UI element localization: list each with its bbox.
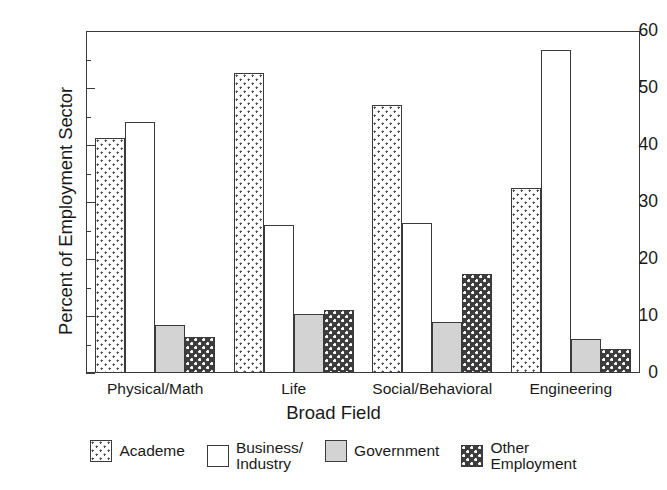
x-group-label: Life <box>225 380 364 398</box>
bar <box>571 339 601 373</box>
bar <box>155 325 185 373</box>
bar <box>185 337 215 373</box>
legend-item[interactable]: Other Employment <box>461 440 576 472</box>
bar <box>125 122 155 373</box>
x-group-label: Social/Behavioral <box>363 380 502 398</box>
legend-label: Academe <box>119 443 184 459</box>
bar <box>324 310 354 373</box>
y-tick-major <box>86 373 95 374</box>
bar <box>541 50 571 373</box>
legend-swatch-icon <box>90 440 112 462</box>
x-group-label: Physical/Math <box>86 380 225 398</box>
x-axis-title: Broad Field <box>0 402 667 424</box>
legend-label: Other Employment <box>490 440 576 472</box>
bar <box>432 322 462 373</box>
bar-chart: Percent of Employment Sector 01020304050… <box>0 0 667 490</box>
legend-label: Business/ Industry <box>236 440 303 472</box>
bar <box>95 138 125 373</box>
bar <box>462 274 492 373</box>
bar <box>294 314 324 373</box>
y-axis-title: Percent of Employment Sector <box>55 41 77 381</box>
bar <box>234 73 264 373</box>
legend-item[interactable]: Academe <box>90 440 184 462</box>
bar <box>372 105 402 373</box>
x-group-label: Engineering <box>502 380 641 398</box>
bar <box>264 225 294 373</box>
legend: AcademeBusiness/ IndustryGovernmentOther… <box>0 440 667 472</box>
bar <box>601 349 631 374</box>
legend-swatch-icon <box>325 440 347 462</box>
bar <box>511 188 541 373</box>
legend-label: Government <box>354 443 439 459</box>
legend-item[interactable]: Government <box>325 440 439 462</box>
legend-swatch-icon <box>461 445 483 467</box>
legend-item[interactable]: Business/ Industry <box>207 440 303 472</box>
bars-layer <box>86 31 640 373</box>
bar <box>402 223 432 373</box>
legend-swatch-icon <box>207 445 229 467</box>
